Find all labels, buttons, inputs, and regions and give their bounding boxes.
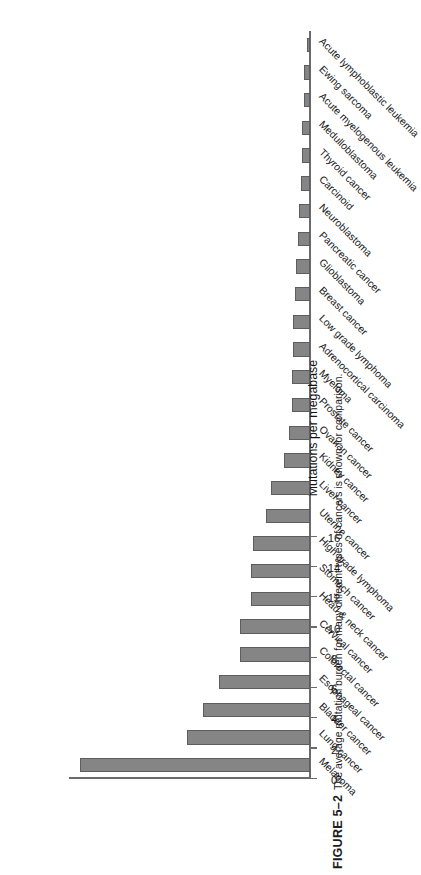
bar [203,703,310,717]
bar [298,232,310,246]
bar [307,38,310,52]
bar [293,315,310,329]
bar [289,426,310,440]
bar [302,148,310,162]
bar [299,204,310,218]
bar [304,65,310,79]
bar [293,342,310,356]
bar [284,453,310,467]
bar-chart: 0246810121416 Mutations per megabase Mel… [0,0,357,875]
bar [295,287,310,301]
category-baseline [69,777,311,779]
bar [304,93,310,107]
bar [240,647,310,661]
bar [302,121,310,135]
bar [80,758,310,772]
figure-caption-block: FIGURE 5–2The average mutation burden fo… [357,0,393,875]
bar [240,619,310,633]
figure-caption-text: The average mutation burden for many dif… [333,374,344,790]
bar [266,509,310,523]
figure-caption: FIGURE 5–2The average mutation burden fo… [332,374,346,875]
bar [251,592,310,606]
bar [219,675,310,689]
bar [292,398,310,412]
bar [253,536,310,550]
figure-caption-rotation: FIGURE 5–2The average mutation burden fo… [321,0,357,875]
bar [301,176,310,190]
figure-number-label: FIGURE 5–2 [331,795,345,869]
chart-rotation-wrapper: 0246810121416 Mutations per megabase Mel… [0,0,357,875]
bar [251,564,310,578]
bar [296,259,310,273]
bar [188,730,311,744]
bar [292,370,310,384]
bar [271,481,310,495]
